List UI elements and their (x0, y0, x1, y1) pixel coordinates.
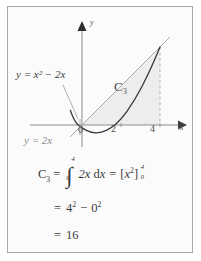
equation-line-2: =42−02 (54, 202, 101, 215)
x-axis-label: x (180, 124, 184, 132)
x-tick-label-4: 4 (150, 124, 155, 134)
figure-card: y = x² − 2x y = 2x C₃ y x 0 2 4 C3=∫402x… (7, 6, 193, 253)
eq3-equals: = (54, 228, 61, 242)
leader-line-parabola (63, 85, 78, 119)
page-root: y = x² − 2x y = 2x C₃ y x 0 2 4 C3=∫402x… (0, 0, 201, 261)
eq1-bracket-close: ] (134, 167, 138, 181)
eq1-dx-var: x (100, 167, 106, 181)
eq1-lhs-subscript: 3 (46, 175, 50, 184)
eq1-equals-1: = (53, 167, 60, 181)
eq1-bracket-group: [x2]40 (120, 168, 138, 181)
solution-block: C3=∫402xdx=[x2]40 =42−02 =16 (8, 157, 192, 252)
origin-tick-label: 0 (78, 125, 83, 135)
eq1-differential: dx (93, 167, 105, 181)
equation-line-3: =16 (54, 229, 79, 242)
graph-svg (8, 7, 192, 155)
eq2-equals: = (54, 201, 61, 215)
eq2-term-1-exponent: 2 (72, 200, 76, 209)
y-axis-label: y (90, 19, 94, 27)
equation-line-1: C3=∫402xdx=[x2]40 (38, 168, 138, 181)
eq2-term-2-exponent: 2 (98, 200, 102, 209)
graph-figure: y = x² − 2x y = 2x C₃ y x 0 2 4 (8, 7, 192, 155)
eq1-integrand: 2x (79, 167, 91, 181)
eq1-equals-2: = (109, 167, 116, 181)
eq1-bracket-upper-limit: 4 (141, 164, 145, 171)
eq3-result: 16 (66, 228, 79, 242)
parabola-equation-label: y = x² − 2x (16, 69, 65, 80)
eq2-minus: − (80, 201, 87, 215)
y-axis-arrow-icon (78, 21, 87, 31)
line-equation-label: y = 2x (24, 135, 52, 146)
x-tick-label-2: 2 (111, 124, 116, 134)
region-label-c3: C₃ (114, 80, 127, 93)
eq1-bracket-lower-limit: 0 (141, 174, 145, 181)
